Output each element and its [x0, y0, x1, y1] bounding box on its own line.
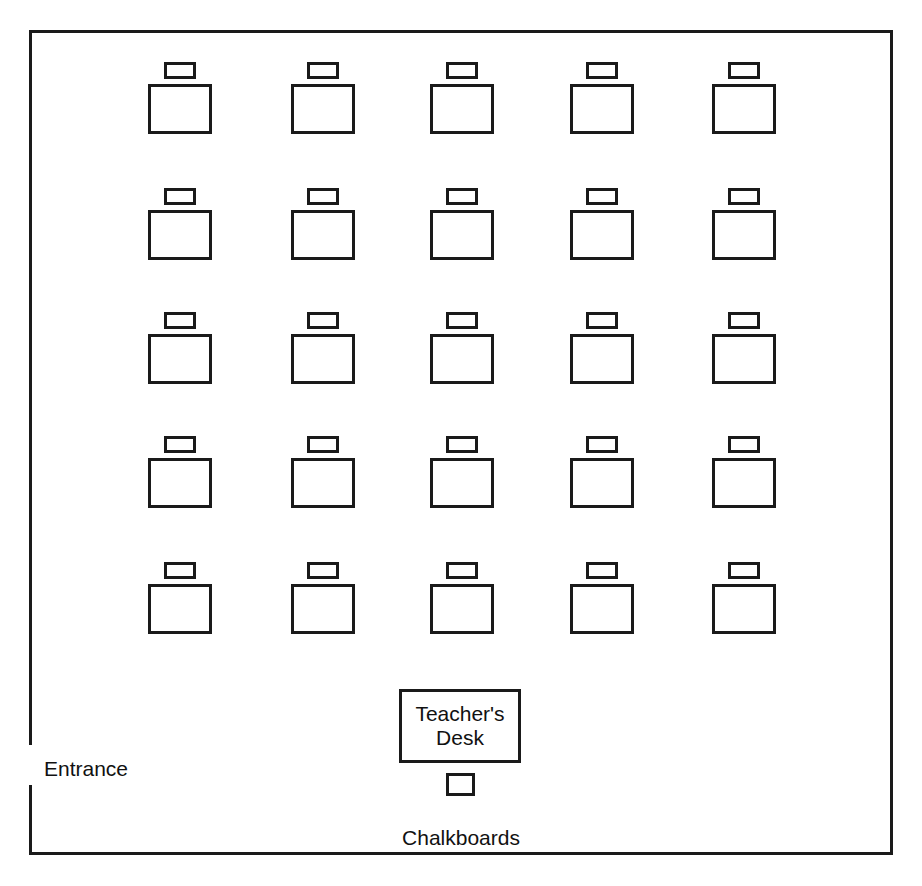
student-desk	[430, 584, 494, 634]
student-chair	[728, 312, 760, 329]
room-wall-right	[890, 30, 893, 855]
student-desk-unit	[570, 62, 634, 134]
student-chair	[586, 188, 618, 205]
student-chair	[446, 562, 478, 579]
student-desk	[712, 210, 776, 260]
student-desk-unit	[291, 312, 355, 384]
student-desk-unit	[712, 436, 776, 508]
student-desk	[148, 84, 212, 134]
student-desk	[570, 334, 634, 384]
student-desk	[712, 334, 776, 384]
student-chair	[728, 562, 760, 579]
student-desk	[712, 458, 776, 508]
student-desk-unit	[570, 436, 634, 508]
teachers-desk: Teacher's Desk	[399, 689, 521, 763]
student-desk-unit	[148, 188, 212, 260]
student-desk	[291, 584, 355, 634]
student-chair	[446, 312, 478, 329]
student-chair	[164, 562, 196, 579]
student-desk-unit	[430, 436, 494, 508]
student-desk	[148, 458, 212, 508]
student-desk-unit	[430, 312, 494, 384]
student-chair	[307, 312, 339, 329]
student-desk	[291, 84, 355, 134]
student-desk-unit	[570, 312, 634, 384]
student-chair	[446, 188, 478, 205]
student-desk-unit	[570, 188, 634, 260]
student-desk-unit	[148, 62, 212, 134]
student-desk-unit	[712, 562, 776, 634]
student-desk	[712, 584, 776, 634]
room-wall-top	[29, 30, 893, 33]
student-desk	[430, 458, 494, 508]
student-desk-unit	[291, 188, 355, 260]
student-chair	[446, 62, 478, 79]
student-chair	[307, 562, 339, 579]
student-chair	[164, 312, 196, 329]
student-desk	[430, 84, 494, 134]
teachers-desk-label: Teacher's Desk	[415, 702, 504, 749]
student-desk	[430, 334, 494, 384]
student-desk-unit	[570, 562, 634, 634]
teachers-chair	[446, 773, 475, 796]
student-desk	[291, 210, 355, 260]
entrance-label: Entrance	[44, 757, 128, 781]
student-desk-unit	[291, 562, 355, 634]
student-chair	[307, 62, 339, 79]
student-chair	[586, 62, 618, 79]
student-desk	[430, 210, 494, 260]
room-wall-bottom-chalkboards	[29, 852, 893, 855]
student-chair	[586, 312, 618, 329]
student-desk	[291, 458, 355, 508]
student-chair	[164, 188, 196, 205]
room-wall-left-upper	[29, 30, 32, 745]
student-chair	[446, 436, 478, 453]
student-desk-unit	[430, 62, 494, 134]
student-desk-unit	[430, 562, 494, 634]
student-chair	[164, 436, 196, 453]
student-desk	[570, 84, 634, 134]
student-desk-unit	[712, 188, 776, 260]
student-desk-unit	[291, 436, 355, 508]
chalkboards-label: Chalkboards	[0, 826, 922, 850]
student-desk	[570, 584, 634, 634]
student-chair	[728, 62, 760, 79]
student-chair	[307, 188, 339, 205]
student-desk	[570, 458, 634, 508]
student-desk	[570, 210, 634, 260]
student-chair	[728, 188, 760, 205]
student-desk	[712, 84, 776, 134]
student-chair	[307, 436, 339, 453]
student-chair	[586, 562, 618, 579]
student-desk-unit	[430, 188, 494, 260]
student-desk-unit	[148, 436, 212, 508]
student-desk	[291, 334, 355, 384]
student-desk-unit	[712, 62, 776, 134]
student-chair	[728, 436, 760, 453]
student-desk-unit	[148, 562, 212, 634]
student-chair	[164, 62, 196, 79]
student-desk	[148, 334, 212, 384]
student-desk	[148, 584, 212, 634]
student-desk-unit	[148, 312, 212, 384]
classroom-diagram: Teacher's Desk Entrance Chalkboards	[0, 0, 922, 886]
student-desk-unit	[291, 62, 355, 134]
student-desk	[148, 210, 212, 260]
student-chair	[586, 436, 618, 453]
student-desk-unit	[712, 312, 776, 384]
